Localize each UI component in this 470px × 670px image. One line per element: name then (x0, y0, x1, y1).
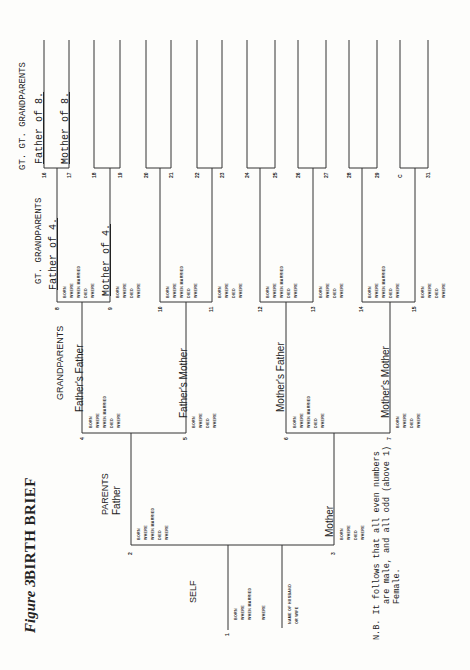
person-7-fields: BORNWHEREDIEDWHERE (395, 413, 423, 428)
person-14-fields: BORNWHEREWHEN MARRIEDDIEDWHERE (367, 266, 402, 298)
person-25-number: 25 (272, 172, 278, 178)
person-13-number: 13 (310, 306, 316, 312)
person-4-number: 4 (79, 437, 85, 440)
person-9-name: Mother of 4. (101, 224, 112, 296)
person-14-number: 14 (358, 306, 364, 312)
person-8-name: Father of 4. (48, 218, 59, 290)
person-26-number: 26 (295, 172, 301, 178)
person-10-number: 10 (157, 306, 163, 312)
person-9-fields: BORNWHEREDIEDWHERE (115, 283, 143, 298)
person-29-number: 29 (374, 172, 380, 178)
person-2-name: Father (111, 486, 122, 515)
person-11-fields: BORNWHEREDIEDWHERE (217, 283, 245, 298)
person-6-fields: BORNWHEREWHEN MARRIEDDIEDWHERE (292, 396, 327, 428)
person-1-fields: BORNWHEREWHEN MARRIED WHERE (233, 588, 268, 620)
person-6-name: Mother's Father (275, 342, 286, 412)
person-20-number: 20 (143, 172, 149, 178)
person-21-number: 21 (168, 172, 174, 178)
person-27-number: 27 (323, 172, 329, 178)
person-16-name: Father of 8. (34, 92, 45, 164)
figure-label: Figure 3 (22, 579, 39, 633)
person-28-number: 28 (346, 172, 352, 178)
person-5-number: 5 (182, 437, 188, 440)
person-11-number: 11 (208, 307, 214, 312)
person-17-name: Mother of 8. (60, 92, 71, 164)
person-10-fields: BORNWHEREWHEN MARRIEDDIEDWHERE (165, 266, 200, 298)
person-7-number: 7 (386, 437, 392, 440)
person-24-number: 24 (244, 172, 250, 178)
person-9-number: 9 (107, 307, 113, 310)
person-12-fields: BORNWHEREWHEN MARRIEDDIEDWHERE (265, 266, 300, 298)
person-15-number: 15 (411, 306, 417, 312)
person-17-number: 17 (66, 172, 72, 178)
spouse-fields: NAME OF HUSBANDOR WIFE (287, 584, 301, 624)
person-4-name: Father's Father (74, 345, 85, 413)
page-title: BIRTH BRIEF (22, 477, 39, 580)
person-4-fields: BORNWHEREWHEN MARRIEDDIEDWHERE (88, 396, 123, 428)
section-grandparents: GRANDPARENTS (55, 326, 65, 400)
birth-brief-page: Figure 3 BIRTH BRIEF SELF PARENTS GRANDP… (0, 0, 470, 670)
section-parents: PARENTS (100, 473, 110, 515)
person-2-fields: BORNWHEREWHEN MARRIEDDIEDWHERE (136, 508, 171, 540)
section-self: SELF (188, 580, 198, 603)
person-5-name: Father's Mother (178, 348, 189, 418)
person-7-name: Mother's Mother (380, 346, 391, 418)
person-30-number: C (397, 174, 403, 178)
person-5-fields: BORNWHEREDIEDWHERE (191, 413, 219, 428)
person-2-number: 2 (127, 552, 133, 555)
person-13-fields: BORNWHEREDIEDWHERE (318, 283, 346, 298)
person-12-number: 12 (257, 306, 263, 312)
person-3-name: Mother (324, 506, 335, 537)
person-15-fields: BORNWHEREDIEDWHERE (420, 283, 448, 298)
person-3-number: 3 (330, 552, 336, 555)
person-23-number: 23 (219, 172, 225, 178)
person-19-number: 19 (117, 172, 123, 178)
person-3-fields: BORNWHEREDIEDWHERE (339, 525, 367, 540)
person-8-fields: BORNWHEREWHEN MARRIEDDIEDWHERE (62, 266, 97, 298)
person-6-number: 6 (283, 437, 289, 440)
person-18-number: 18 (91, 172, 97, 178)
person-31-number: 31 (425, 172, 431, 178)
person-22-number: 22 (194, 172, 200, 178)
section-great-grandparents: GT. GRANDPARENTS (34, 198, 44, 284)
person-1-number: 1 (224, 633, 230, 636)
section-great-great-grandparents: GT. GT. GRANDPARENTS (18, 62, 28, 170)
person-8-number: 8 (54, 307, 60, 310)
footnote: N.B. It follows that all even numbers ar… (372, 446, 402, 640)
person-16-number: 16 (41, 172, 47, 178)
